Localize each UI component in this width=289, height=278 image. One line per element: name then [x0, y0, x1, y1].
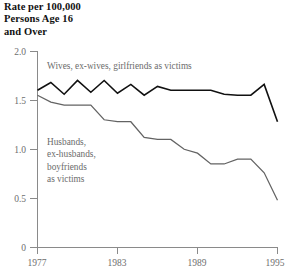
lower-series-label-line-1: ex-husbands,: [47, 149, 96, 159]
lower-series-label: Husbands, ex-husbands, boyfriends as vic…: [47, 137, 98, 184]
lower-series-label-line-3: as victims: [47, 174, 85, 184]
y-tick-label-0: 0: [21, 243, 26, 253]
x-tick-label-3: 1995: [266, 258, 285, 268]
series-line-wives: [38, 80, 278, 121]
upper-series-label: Wives, ex-wives, girlfriends as victims: [47, 61, 192, 71]
y-tick-label-1: 0.5: [14, 194, 26, 204]
y-tick-label-2: 1.0: [14, 145, 26, 155]
x-tick-label-2: 1989: [188, 258, 207, 268]
series-line-husbands: [38, 95, 278, 200]
y-tick-label-3: 1.5: [14, 96, 26, 106]
lower-series-label-line-0: Husbands,: [47, 137, 86, 147]
chart-container: Rate per 100,000 Persons Age 16 and Over…: [0, 0, 289, 278]
y-axis: 2.0 1.5 1.0 0.5 0: [14, 47, 37, 253]
lower-series-label-line-2: boyfriends: [47, 162, 87, 172]
line-chart: 2.0 1.5 1.0 0.5 0 1977 1983 1989 1995 Wi…: [0, 0, 289, 278]
x-tick-label-1: 1983: [108, 258, 127, 268]
x-axis: 1977 1983 1989 1995: [28, 248, 285, 269]
y-tick-label-4: 2.0: [14, 47, 26, 57]
x-tick-label-0: 1977: [28, 258, 47, 268]
